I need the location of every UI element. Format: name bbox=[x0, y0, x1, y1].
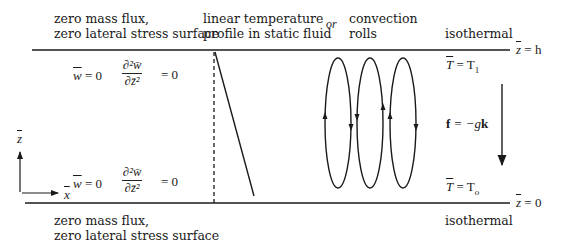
arrow-up-icon bbox=[323, 112, 328, 119]
arrow-down-icon bbox=[349, 124, 354, 131]
arrow-up-icon bbox=[388, 112, 393, 119]
diagram-graphics bbox=[0, 0, 562, 246]
arrow-down-icon bbox=[414, 124, 419, 131]
temperature-profile-line bbox=[215, 52, 254, 196]
convection-rolls bbox=[325, 58, 416, 188]
convection-roll-1 bbox=[325, 58, 351, 188]
convection-roll-2 bbox=[357, 58, 383, 188]
roll-arrowheads bbox=[323, 103, 419, 131]
arrow-down-icon bbox=[355, 114, 360, 121]
arrow-up-icon bbox=[381, 103, 386, 110]
convection-roll-3 bbox=[390, 58, 416, 188]
